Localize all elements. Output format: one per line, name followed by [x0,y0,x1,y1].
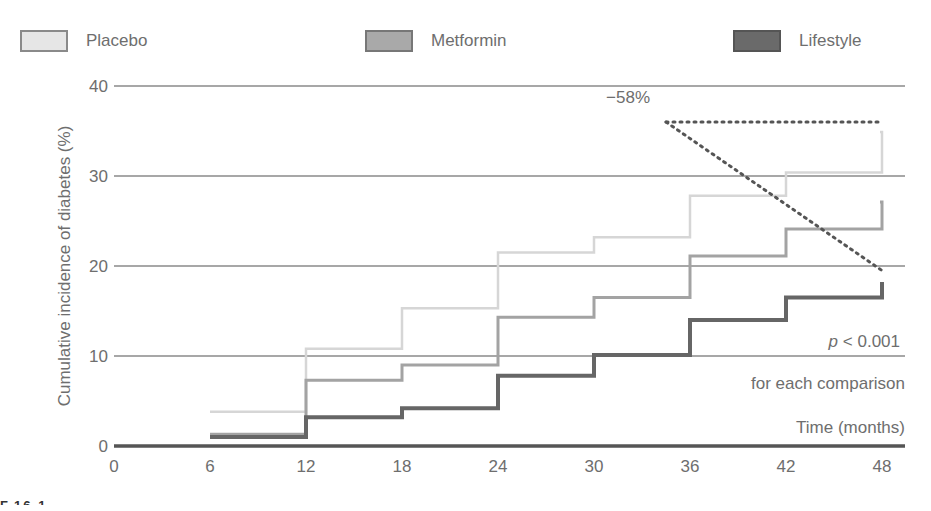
x-tick-label: 36 [681,457,700,476]
p-symbol: p [828,332,838,351]
y-axis-ticks: 010203040 [89,77,108,456]
x-axis-ticks: 0612182430364248 [109,457,891,476]
x-tick-label: 18 [393,457,412,476]
p-note-label: for each comparison [751,374,905,393]
x-tick-label: 12 [297,457,316,476]
x-tick-label: 6 [205,457,214,476]
y-tick-label: 10 [89,347,108,366]
y-tick-label: 20 [89,257,108,276]
y-tick-label: 0 [99,437,108,456]
series-lifestyle [210,284,882,437]
p-value-label: p < 0.001 [828,332,900,351]
x-tick-label: 42 [777,457,796,476]
x-tick-label: 24 [489,457,508,476]
p-value: < 0.001 [838,332,900,351]
x-axis-title: Time (months) [796,418,905,437]
x-tick-label: 0 [109,457,118,476]
reduction-label: −58% [606,88,650,107]
y-axis-title: Cumulative incidence of diabetes (%) [55,126,74,407]
x-tick-label: 30 [585,457,604,476]
x-tick-label: 48 [873,457,892,476]
series-placebo [210,132,882,412]
y-tick-label: 30 [89,167,108,186]
chart-plot: Cumulative incidence of diabetes (%) 010… [0,0,931,511]
y-tick-label: 40 [89,77,108,96]
